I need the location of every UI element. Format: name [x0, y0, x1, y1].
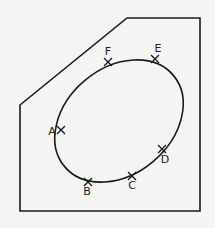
point-e: E: [151, 42, 162, 63]
point-f: F: [104, 45, 112, 66]
ellipse-curve: [31, 35, 208, 207]
point-label: E: [155, 42, 162, 55]
point-label: F: [105, 45, 111, 58]
point-label: D: [161, 153, 169, 166]
point-label: C: [128, 179, 136, 192]
point-label: A: [48, 125, 56, 138]
diagram-canvas: FEADCB: [0, 0, 215, 228]
point-label: B: [83, 185, 91, 198]
